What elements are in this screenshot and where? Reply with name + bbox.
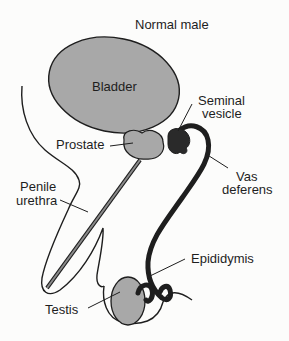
vas-deferens-leader: [206, 154, 228, 168]
epididymis-leader: [150, 259, 185, 276]
penile-urethra-leader: [60, 200, 88, 212]
testis-shape: [111, 277, 145, 325]
diagram-title: Normal male: [135, 17, 209, 32]
penile-urethra-label-line1: Penile: [20, 179, 56, 194]
prostate-shape: [124, 130, 164, 159]
vas-deferens-label-line2: deferens: [222, 182, 273, 197]
diagram-canvas: Normal male Bladder Prostate Seminal ves…: [0, 0, 289, 341]
bladder-label: Bladder: [92, 79, 137, 94]
epididymis-label: Epididymis: [191, 251, 254, 266]
seminal-vesicle-shape: [168, 129, 190, 154]
seminal-vesicle-label-line2: vesicle: [202, 106, 242, 121]
penile-urethra-label-line2: urethra: [16, 193, 58, 208]
prostate-label: Prostate: [56, 137, 104, 152]
testis-label: Testis: [45, 302, 79, 317]
anatomy-diagram: Normal male Bladder Prostate Seminal ves…: [0, 0, 289, 341]
